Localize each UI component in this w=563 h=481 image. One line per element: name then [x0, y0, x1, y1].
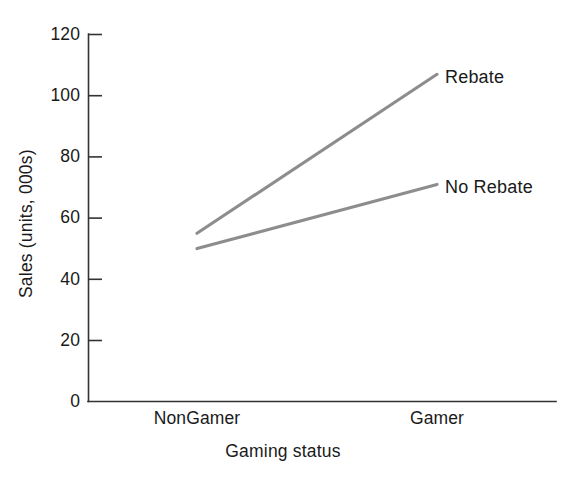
x-axis-title: Gaming status: [183, 443, 383, 461]
y-tick-label-20: 20: [18, 332, 80, 350]
series-label-rebate: Rebate: [445, 68, 504, 86]
x-tick-label-gamer: Gamer: [367, 410, 507, 428]
series-line-rebate: [197, 74, 437, 233]
series-label-no-rebate: No Rebate: [445, 178, 533, 196]
y-axis-title: Sales (units, 000s): [18, 149, 36, 298]
y-tick-label-0: 0: [18, 393, 80, 411]
x-tick-label-nongamer: NonGamer: [117, 410, 277, 428]
chart-figure: 120 100 80 60 40 20 0 Sales (units, 000s…: [0, 0, 563, 481]
y-axis-ticks: [89, 35, 103, 341]
y-tick-label-120: 120: [18, 26, 80, 44]
series-line-no-rebate: [197, 184, 437, 248]
y-tick-label-100: 100: [18, 87, 80, 105]
